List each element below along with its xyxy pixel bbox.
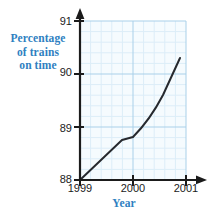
x-tick-label-2001: 2001 [166, 182, 206, 194]
x-axis-title: Year [98, 197, 150, 211]
x-tick-label-1999: 1999 [60, 182, 100, 194]
y-tick-label-91: 91 [50, 15, 72, 27]
y-axis-title-line-1: Percentage [2, 32, 74, 46]
y-axis-title-line-2: of trains [2, 46, 74, 60]
y-tick-label-90: 90 [50, 66, 72, 78]
x-tick-label-2000: 2000 [113, 182, 153, 194]
line-chart: Percentage of trains on time Year 91 90 … [0, 0, 214, 211]
y-tick-label-89: 89 [50, 122, 72, 134]
